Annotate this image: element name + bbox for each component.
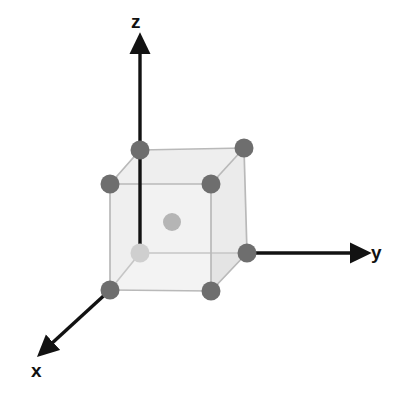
atom-body-center[interactable] [163, 213, 181, 231]
atom-corner-front-top-left[interactable] [101, 175, 120, 194]
atom-corner-back-bottom-right[interactable] [238, 244, 257, 263]
x-axis-label: x [31, 361, 42, 380]
edge-front-bottom-left-to-front-bottom-right [110, 290, 211, 291]
atom-corner-back-top-right[interactable] [235, 139, 254, 158]
atom-corner-front-top-right[interactable] [202, 175, 221, 194]
atom-corner-back-bottom-left-origin[interactable] [131, 244, 150, 263]
lattice-diagram-canvas [0, 0, 403, 408]
atom-corner-back-top-left[interactable] [131, 141, 150, 160]
atom-corner-front-bottom-left[interactable] [101, 281, 120, 300]
cube-face-back [140, 148, 247, 253]
z-axis-label: z [131, 12, 141, 31]
y-axis-label: y [371, 243, 382, 262]
x-axis-line [50, 290, 110, 345]
bcc-lattice-figure: z y x [0, 0, 403, 408]
atom-corner-front-bottom-right[interactable] [202, 282, 221, 301]
